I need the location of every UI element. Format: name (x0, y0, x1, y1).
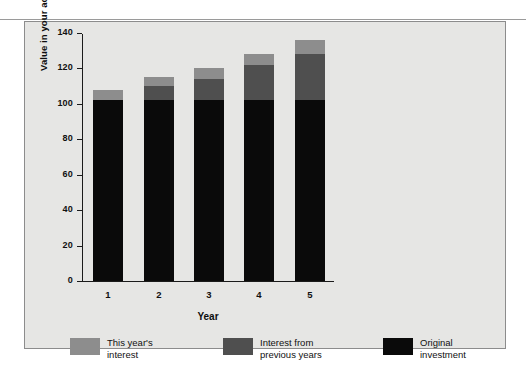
x-axis-tick-label: 1 (93, 289, 123, 300)
y-axis-tick: 100 (77, 104, 82, 105)
bar (244, 54, 274, 281)
y-axis-tick: 0 (77, 281, 82, 282)
y-axis-tick: 80 (77, 139, 82, 140)
bar (144, 77, 174, 281)
plot-area: 020406080100120140 (82, 34, 334, 282)
y-axis-line (82, 34, 83, 282)
bar-segment (295, 100, 325, 281)
y-axis-tick: 40 (77, 210, 82, 211)
chart-screenshot: Value in your account, dollars 020406080… (0, 0, 526, 370)
y-axis-label: Value in your account, dollars (38, 0, 49, 71)
bar-segment (144, 100, 174, 281)
plot-wrapper: Value in your account, dollars 020406080… (24, 21, 506, 349)
bar-segment (144, 77, 174, 86)
y-axis-tick-label: 120 (57, 62, 73, 72)
x-axis-tick-label: 5 (295, 289, 325, 300)
y-axis-tick: 20 (77, 246, 82, 247)
legend-label: Original investment (420, 337, 466, 360)
bar-segment (144, 86, 174, 100)
y-axis-tick: 140 (77, 33, 82, 34)
bar-segment (295, 40, 325, 54)
y-axis-tick: 60 (77, 175, 82, 176)
bar-segment (244, 100, 274, 281)
chart-legend: This year's interestInterest from previo… (70, 337, 500, 369)
y-axis-tick-label: 140 (57, 27, 73, 37)
legend-label: This year's interest (107, 337, 153, 360)
x-axis-tick-label: 2 (144, 289, 174, 300)
x-axis-label: Year (82, 311, 334, 322)
y-axis-tick-label: 0 (68, 275, 73, 285)
legend-swatch-this-years-interest (70, 338, 100, 355)
y-axis-tick-label: 20 (63, 240, 73, 250)
bar (295, 40, 325, 281)
bar-segment (194, 100, 224, 281)
bar-segment (93, 90, 123, 101)
y-axis-tick-label: 40 (63, 204, 73, 214)
legend-item-this-years-interest: This year's interest (70, 337, 223, 360)
y-axis-tick-label: 100 (57, 98, 73, 108)
page-top-rule (0, 19, 526, 20)
x-axis-tick-label: 4 (244, 289, 274, 300)
bar (194, 68, 224, 281)
x-axis-tick-label: 3 (194, 289, 224, 300)
bar (93, 90, 123, 281)
legend-item-interest-previous-years: Interest from previous years (223, 337, 383, 360)
y-axis-tick-label: 60 (63, 169, 73, 179)
legend-label: Interest from previous years (260, 337, 322, 360)
y-axis-tick: 120 (77, 68, 82, 69)
bar-segment (194, 68, 224, 79)
bar-segment (244, 54, 274, 65)
bar-segment (295, 54, 325, 100)
bar-segment (93, 100, 123, 281)
legend-swatch-original-investment (383, 338, 413, 355)
y-axis-tick-label: 80 (63, 133, 73, 143)
legend-swatch-interest-previous-years (223, 338, 253, 355)
x-axis-line (82, 281, 334, 282)
bar-segment (194, 79, 224, 100)
legend-item-original-investment: Original investment (383, 337, 500, 360)
bar-segment (244, 65, 274, 100)
